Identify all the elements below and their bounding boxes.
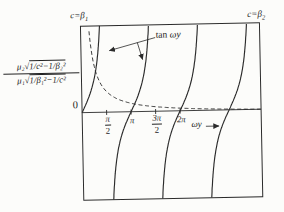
left-asymptote-label: c=β1 [70, 11, 88, 23]
dispersion-curve-dashed [89, 28, 261, 112]
x-tick-label: 2π [177, 115, 186, 124]
numerator-radicand: 1/c²−1/β₂² [29, 60, 65, 71]
x-tick-label: 3π2 [151, 114, 162, 135]
x-tick-label: π2 [104, 115, 111, 136]
origin-label: 0 [58, 100, 78, 111]
right-asymptote-sub: 2 [262, 13, 265, 20]
plot-canvas [0, 0, 284, 212]
y-axis-label-denominator: μ₁√1/β₁²−1/c² [3, 73, 79, 86]
x-axis-label-text: ωy [191, 119, 202, 129]
y-axis-label: μ₂√1/c²−1/β₂² μ₁√1/β₁²−1/c² [3, 60, 79, 85]
tan-curve-label: tan ωy [156, 30, 181, 40]
tan-branch-2 [110, 26, 151, 199]
left-asymptote-text: c=β [70, 10, 85, 20]
tan-branch-1 [80, 26, 101, 113]
denominator-radicand: 1/β₁²−1/c² [29, 74, 65, 85]
figure: c=β1 c=β2 μ₂√1/c²−1/β₂² μ₁√1/β₁²−1/c² 0 … [0, 0, 284, 212]
tan-curve-label-roman: tan [156, 29, 170, 39]
tan-branch-3 [159, 25, 200, 198]
right-asymptote-label: c=β2 [247, 10, 265, 22]
tan-branch-4 [208, 24, 249, 197]
tan-label-arrow-2 [137, 42, 142, 59]
x-tick-label: π [130, 116, 135, 125]
numerator-prefix: μ₂√ [17, 61, 30, 71]
denominator-prefix: μ₁√ [17, 75, 30, 85]
tan-curve-label-italic: ωy [170, 29, 181, 39]
x-axis-line [82, 109, 261, 112]
tan-label-arrow-1 [109, 38, 155, 51]
x-axis-label: ωy [191, 120, 202, 129]
left-asymptote-sub: 1 [85, 15, 88, 22]
scanned-plot: c=β1 c=β2 μ₂√1/c²−1/β₂² μ₁√1/β₁²−1/c² 0 … [0, 0, 284, 212]
plot-frame [80, 23, 262, 200]
right-asymptote-text: c=β [247, 9, 262, 19]
